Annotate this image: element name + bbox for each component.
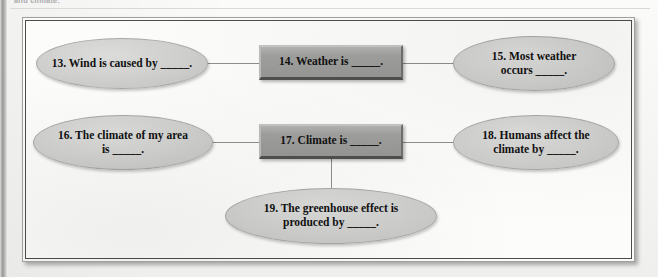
diagram-frame: 13. Wind is caused by _____. 14. Weather… bbox=[22, 17, 635, 262]
scanned-page: and climate. 13. Wind is caused by _____… bbox=[0, 0, 658, 277]
node-18-label: 18. Humans affect the climate by _____. bbox=[466, 129, 606, 156]
node-16-label: 16. The climate of my area is _____. bbox=[46, 129, 200, 156]
node-18-humans-affect[interactable]: 18. Humans affect the climate by _____. bbox=[453, 115, 619, 170]
node-15-label: 15. Most weather occurs _____. bbox=[466, 50, 602, 77]
node-19-label: 19. The greenhouse effect is produced by… bbox=[238, 202, 424, 229]
node-17-climate[interactable]: 17. Climate is _____. bbox=[259, 124, 403, 159]
node-17-label: 17. Climate is _____. bbox=[269, 134, 393, 148]
node-15-most-weather[interactable]: 15. Most weather occurs _____. bbox=[453, 36, 615, 91]
node-19-greenhouse-effect[interactable]: 19. The greenhouse effect is produced by… bbox=[225, 188, 437, 244]
connector-13-to-14 bbox=[201, 63, 261, 64]
node-16-my-area-climate[interactable]: 16. The climate of my area is _____. bbox=[33, 115, 213, 170]
connector-17-to-18 bbox=[401, 142, 456, 143]
horizontal-rule bbox=[10, 8, 650, 9]
node-14-label: 14. Weather is _____. bbox=[269, 55, 393, 69]
clipped-text-fragment: and climate. bbox=[14, 0, 60, 4]
node-13-wind[interactable]: 13. Wind is caused by _____. bbox=[36, 38, 208, 89]
page-gutter-edge bbox=[0, 0, 7, 277]
node-13-label: 13. Wind is caused by _____. bbox=[49, 57, 195, 71]
connector-16-to-17 bbox=[209, 142, 261, 143]
connector-14-to-15 bbox=[401, 63, 456, 64]
node-14-weather[interactable]: 14. Weather is _____. bbox=[259, 45, 403, 80]
